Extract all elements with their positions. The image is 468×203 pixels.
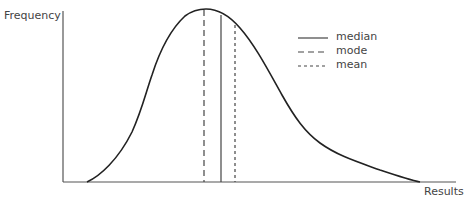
legend-label-mode: mode bbox=[336, 44, 367, 57]
y-axis-label: Frequency bbox=[4, 9, 61, 22]
chart-canvas bbox=[0, 0, 468, 203]
legend-label-median: median bbox=[336, 30, 377, 43]
legend-label-mean: mean bbox=[336, 58, 367, 71]
x-axis-label: Results bbox=[424, 185, 464, 198]
